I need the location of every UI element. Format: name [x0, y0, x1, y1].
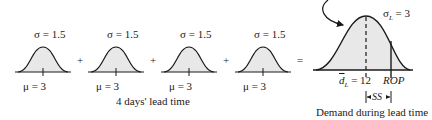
sigma-label-1: σ = 1.5	[34, 28, 65, 40]
rop-label: ROP	[383, 74, 404, 86]
result-sigma-label: σL = 3	[383, 7, 410, 24]
mu-label-2: μ = 3	[96, 80, 119, 92]
sigma-label-4: σ = 1.5	[254, 28, 285, 40]
plus-operator-1: +	[77, 54, 83, 66]
mean-label: dL = 12	[339, 74, 371, 91]
small-caption: 4 days' lead time	[116, 95, 190, 107]
mu-label-4: μ = 3	[243, 80, 266, 92]
small-normal-curve-1	[15, 47, 71, 76]
small-normal-curve-4	[235, 47, 291, 76]
sigma-label-3: σ = 1.5	[180, 28, 211, 40]
small-normal-curve-2	[88, 47, 144, 76]
sigma-value: = 3	[393, 7, 410, 19]
diagram-canvas	[0, 0, 432, 120]
result-normal-curve	[313, 16, 413, 78]
small-normal-curve-3	[161, 47, 217, 76]
mu-label-1: μ = 3	[23, 80, 46, 92]
mu-label-3: μ = 3	[169, 80, 192, 92]
curved-arrow-icon	[323, 0, 343, 25]
mean-value: = 12	[348, 74, 371, 86]
result-caption: Demand during lead time	[316, 106, 428, 118]
sigma-label-2: σ = 1.5	[107, 28, 138, 40]
equals-operator: =	[297, 54, 303, 66]
plus-operator-2: +	[150, 54, 156, 66]
ss-label: SS	[372, 91, 382, 103]
plus-operator-3: +	[223, 54, 229, 66]
